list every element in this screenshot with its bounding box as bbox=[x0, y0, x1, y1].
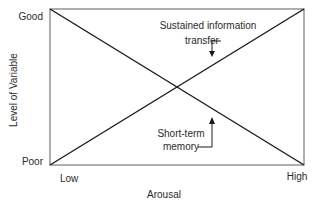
y-tick-good: Good bbox=[19, 11, 43, 22]
shortterm-label-line1: Short-term bbox=[157, 128, 204, 139]
x-axis-title: Arousal bbox=[147, 189, 181, 200]
sustained-label-line1: Sustained information bbox=[160, 20, 257, 31]
shortterm-label-line2: memory bbox=[163, 141, 199, 152]
x-tick-low: Low bbox=[60, 173, 79, 184]
y-tick-poor: Poor bbox=[22, 156, 44, 167]
x-tick-high: High bbox=[287, 171, 308, 182]
y-axis-title: Level of Variable bbox=[8, 53, 19, 127]
arousal-diagram: Good Poor Low High Arousal Level of Vari… bbox=[0, 0, 312, 209]
